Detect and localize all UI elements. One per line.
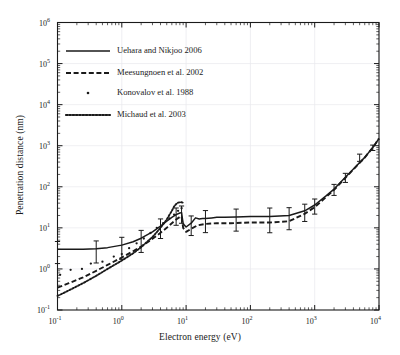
x-tick-label: 102 [241,315,252,326]
scatter-points [59,207,183,276]
x-tick-label: 101 [177,315,188,326]
y-tick-label: 105 [26,58,50,69]
y-tick-label: 103 [26,140,50,151]
y-axis-title: Penetration distance (nm) [15,75,25,255]
legend-entry-label: Konovalov et al. 1988 [117,87,193,97]
x-axis-title: Electron energy (eV) [0,332,400,342]
legend-markers [66,51,110,115]
y-tick-label: 10-1 [26,304,50,315]
legend-entry-label: Uehara and Nikjoo 2006 [117,45,202,55]
error-bars [55,145,375,263]
y-tick-label: 101 [26,222,50,233]
x-tick-label: 103 [306,315,317,326]
y-tick-label: 102 [26,181,50,192]
x-tick-label: 104 [370,315,381,326]
penetration-distance-chart: Electron energy (eV) Penetration distanc… [0,0,400,355]
legend-entry-label: Meesungnoen et al. 2002 [117,67,203,77]
axis-ticks [58,23,380,311]
y-tick-label: 100 [26,263,50,274]
axes-frame [58,23,380,311]
legend-entry-label: Michaud et al. 2003 [117,109,186,119]
data-curves [58,138,380,295]
y-tick-label: 106 [26,17,50,28]
grid-lines [58,23,380,311]
x-tick-label: 10-1 [49,315,62,326]
x-tick-label: 100 [113,315,124,326]
y-tick-label: 104 [26,99,50,110]
